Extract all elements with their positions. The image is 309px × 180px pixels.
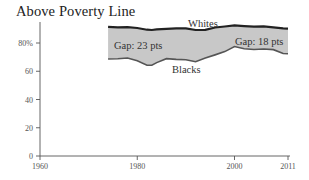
y-tick-label: 0 (29, 152, 33, 161)
gap-right-label: Gap: 18 pts (235, 36, 283, 47)
y-tick-label: 20 (25, 124, 33, 133)
gap-left-label: Gap: 23 pts (114, 40, 162, 51)
blacks-label: Blacks (172, 64, 201, 75)
y-tick-label: 60 (25, 67, 33, 76)
x-tick-label: 2011 (280, 162, 296, 171)
x-tick-label: 2000 (227, 162, 243, 171)
x-axis: 1960198020002011 (32, 156, 296, 171)
y-tick-label: 40 (25, 96, 33, 105)
y-tick-label: 80% (18, 39, 33, 48)
x-tick-label: 1980 (129, 162, 145, 171)
chart-svg: 020406080% 1960198020002011 Whites Black… (0, 0, 309, 180)
y-axis: 020406080% (18, 22, 40, 161)
x-tick-label: 1960 (32, 162, 48, 171)
whites-label: Whites (188, 18, 218, 29)
